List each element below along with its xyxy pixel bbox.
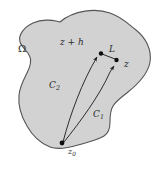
point-marker-z0 (60, 141, 65, 146)
point-label-z-plus-h: z + h (60, 38, 84, 47)
segment-label-l: L (109, 45, 115, 54)
contour-label-c2: C2 (49, 81, 60, 91)
point-label-z0: z0 (68, 148, 76, 157)
contour-label-c1: C1 (93, 110, 104, 120)
contour-label-c1-base: C (93, 109, 100, 119)
point-marker-z-plus-h (99, 51, 103, 55)
contour-label-c2-base: C (49, 80, 56, 90)
figure-canvas (0, 0, 162, 175)
region-label-omega: Ω (18, 44, 26, 54)
point-label-z: z (124, 60, 129, 69)
contour-diagram-figure: Ω z + h L z C2 C1 z0 (0, 0, 162, 175)
contour-label-c2-subscript: 2 (56, 84, 60, 92)
contour-label-c1-subscript: 1 (100, 113, 104, 121)
point-label-z0-subscript: 0 (72, 151, 76, 157)
point-marker-z (114, 58, 118, 62)
